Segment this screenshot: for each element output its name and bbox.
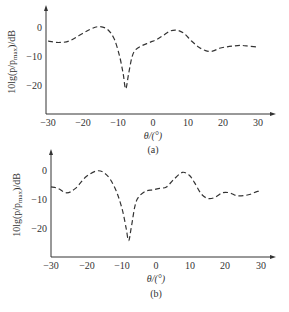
y-tick-label: −10 [26,51,42,62]
y-axis-label: 10lg(p/pmax)/dB [11,173,24,237]
x-tick-label: 30 [253,117,263,128]
x-axis-label: θ/(°) [144,130,163,142]
x-axis-label: θ/(°) [147,273,166,285]
y-tick-label: 0 [42,165,47,176]
data-line [48,27,256,89]
y-tick-label: −10 [31,194,47,205]
x-axis-arrow-icon [270,255,276,259]
x-tick-labels: −30 −20 −10 0 10 20 30 [43,260,266,271]
y-tick-labels: 0 −10 −20 [31,165,47,234]
x-tick-label: 0 [154,260,159,271]
x-axis-arrow-icon [270,112,276,116]
x-tick-label: −20 [79,260,95,271]
panel-b: 0 −10 −20 −30 −20 −10 0 10 20 30 θ/(°) (… [11,149,276,300]
y-axis-arrow-icon [44,5,48,11]
x-tick-label: −30 [40,117,56,128]
x-tick-label: −30 [43,260,59,271]
y-tick-labels: 0 −10 −20 [26,22,42,91]
y-tick-label: 0 [37,22,42,33]
panel-caption: (b) [150,288,162,300]
x-tick-label: 20 [218,117,228,128]
y-axis-arrow-icon [49,149,53,155]
x-tick-label: 30 [256,260,266,271]
y-tick-label: −20 [26,80,42,91]
x-tick-label: −10 [110,117,126,128]
data-line [51,171,261,241]
x-tick-label: −20 [75,117,91,128]
x-tick-label: 10 [185,260,195,271]
x-tick-label: 20 [220,260,230,271]
y-axis-label: 10lg(p/pmax)/dB [6,30,19,94]
x-tick-label: 10 [183,117,193,128]
panel-caption: (a) [147,144,158,156]
x-tick-label: 0 [151,117,156,128]
panel-a: 0 −10 −20 −30 −20 −10 0 10 20 30 θ/(°) (… [6,5,276,156]
x-tick-labels: −30 −20 −10 0 10 20 30 [40,117,263,128]
x-tick-label: −10 [114,260,130,271]
figure: 0 −10 −20 −30 −20 −10 0 10 20 30 θ/(°) (… [0,0,289,312]
y-tick-label: −20 [31,223,47,234]
